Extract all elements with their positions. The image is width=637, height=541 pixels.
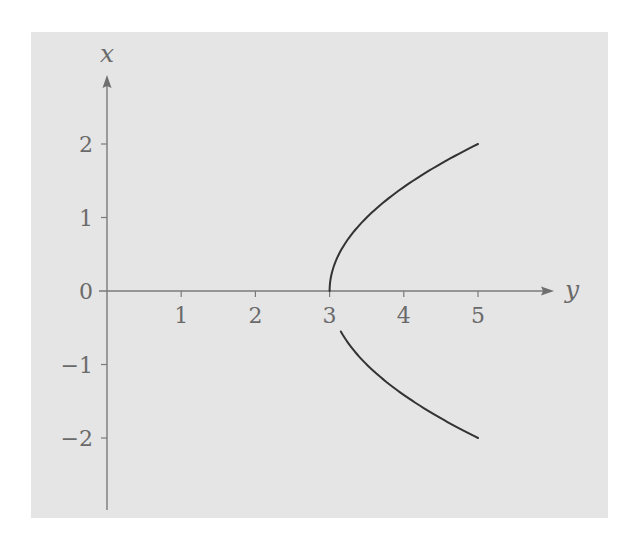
horizontal-tick-label: 1 xyxy=(174,303,188,328)
horizontal-axis-label: y xyxy=(564,275,580,304)
horizontal-tick-label: 5 xyxy=(471,303,485,328)
vertical-tick-label: 1 xyxy=(79,206,93,231)
horizontal-tick-label: 3 xyxy=(323,303,337,328)
chart: 12345210−1−2xy xyxy=(0,0,637,541)
horizontal-tick-label: 2 xyxy=(248,303,262,328)
vertical-axis-label: x xyxy=(100,39,114,68)
plot-background xyxy=(31,32,608,518)
horizontal-tick-label: 4 xyxy=(397,303,411,328)
vertical-tick-label: −1 xyxy=(61,353,93,378)
vertical-tick-label: 2 xyxy=(79,132,93,157)
vertical-tick-label: −2 xyxy=(61,426,93,451)
vertical-tick-label: 0 xyxy=(79,279,93,304)
